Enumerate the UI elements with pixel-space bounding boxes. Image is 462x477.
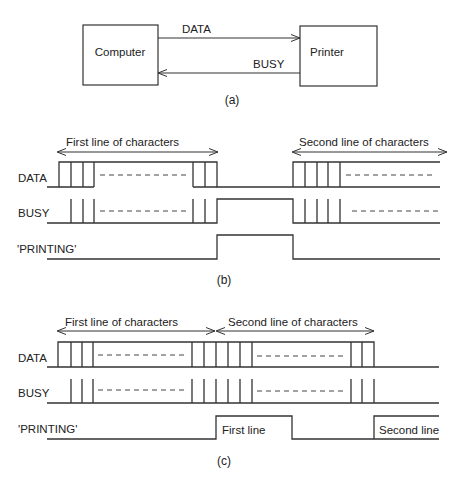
part-a-block-diagram: Computer Printer DATA BUSY (a) — [83, 23, 377, 107]
signal-label-printing-b: 'PRINTING' — [17, 243, 76, 255]
busy-trace-b — [47, 199, 440, 223]
caption-b: (b) — [217, 273, 232, 287]
printer-handshake-diagram: Computer Printer DATA BUSY (a) First lin… — [0, 0, 462, 477]
span2-label-c: Second line of characters — [228, 316, 358, 328]
signal-label-printing-c: 'PRINTING' — [18, 423, 77, 435]
printing-trace-b — [47, 235, 440, 259]
computer-label: Computer — [95, 46, 146, 58]
part-c-timing-diagram: First line of characters Second line of … — [18, 316, 439, 468]
printer-label: Printer — [310, 46, 344, 58]
printing-pulse1-label: First line — [222, 424, 265, 436]
caption-a: (a) — [225, 93, 240, 107]
signal-label-data-b: DATA — [18, 172, 47, 184]
signal-label-data-c: DATA — [18, 352, 47, 364]
span1-label-c: First line of characters — [65, 316, 178, 328]
busy-trace-c — [47, 379, 439, 403]
data-arrow-label: DATA — [182, 23, 211, 35]
span2-label-b: Second line of characters — [299, 136, 429, 148]
signal-label-busy-b: BUSY — [18, 207, 50, 219]
busy-arrow-label: BUSY — [253, 58, 285, 70]
caption-c: (c) — [217, 454, 231, 468]
data-trace-c — [47, 342, 439, 367]
part-b-timing-diagram: First line of characters Second line of … — [17, 136, 447, 287]
printing-pulse2-label: Second line — [379, 424, 439, 436]
span1-label-b: First line of characters — [66, 136, 179, 148]
signal-label-busy-c: BUSY — [18, 387, 50, 399]
data-trace-b — [47, 162, 440, 187]
